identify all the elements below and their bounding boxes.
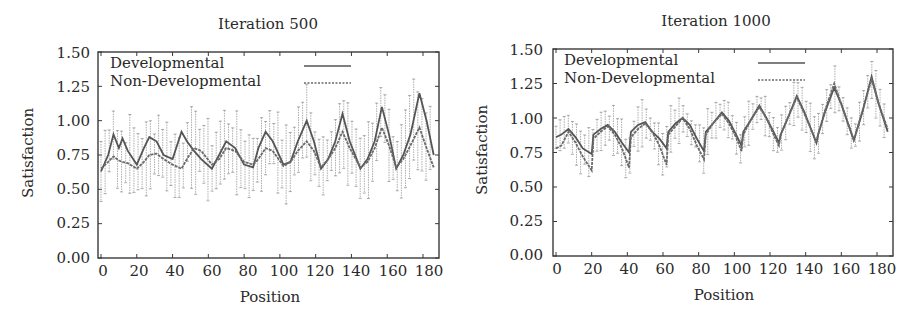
chart-iteration-1000: Iteration 1000 Satisfaction 1.50 1.25 1.… bbox=[455, 0, 909, 321]
series-line-non-developmental bbox=[556, 79, 888, 170]
plot-area bbox=[455, 0, 909, 321]
plot-area bbox=[0, 0, 455, 321]
plot-frame bbox=[553, 49, 893, 256]
chart-iteration-500: Iteration 500 Satisfaction 1.50 1.25 1.0… bbox=[0, 0, 455, 321]
